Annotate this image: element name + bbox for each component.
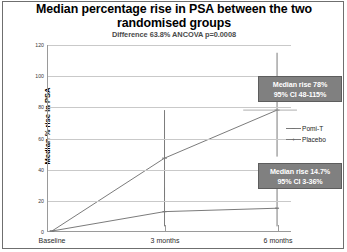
plot-area: 020406080100120Baseline3 months6 months [47, 45, 291, 232]
y-tick-label: 40 [38, 167, 44, 173]
legend-swatch-icon: – [286, 125, 301, 132]
legend-item[interactable]: +Placebo [286, 134, 344, 145]
y-tick-label: 0 [41, 229, 44, 235]
y-tick-label: 60 [38, 136, 44, 142]
upper-annotation-callout: Median rise 78% 95% CI 48-115% [258, 76, 342, 102]
x-tick-label: Baseline [39, 237, 66, 244]
gridline [48, 45, 291, 46]
legend-item[interactable]: –Pomi-T [286, 123, 344, 134]
x-tick-mark [278, 225, 279, 231]
upper-annotation-line2: 95% CI 48-115% [263, 90, 337, 100]
lower-annotation-callout: Median rise 14.7% 95% CI 3-36% [258, 163, 342, 189]
x-tick-mark [165, 225, 166, 231]
y-tick-label: 120 [35, 42, 44, 48]
gridline [48, 201, 291, 202]
y-tick-label: 20 [38, 198, 44, 204]
gridline [48, 76, 291, 77]
upper-annotation-line1: Median rise 78% [263, 80, 337, 90]
y-tick-label: 80 [38, 104, 44, 110]
chart-legend: –Pomi-T+Placebo [286, 123, 344, 145]
lower-annotation-line2: 95% CI 3-36% [263, 177, 337, 187]
gridline [48, 170, 291, 171]
lower-annotation-line1: Median rise 14.7% [263, 167, 337, 177]
gridline [48, 139, 291, 140]
x-tick-label: 6 months [264, 237, 293, 244]
chart-subtitle: Difference 63.8% ANCOVA p=0.0008 [24, 30, 324, 39]
x-tick-label: 3 months [151, 237, 180, 244]
chart-title: Median percentage rise in PSA between th… [24, 3, 324, 30]
legend-item-label: Pomi-T [302, 125, 323, 132]
gridline [48, 107, 291, 108]
legend-item-label: Placebo [302, 136, 326, 143]
chart-figure: Median percentage rise in PSA between th… [0, 0, 347, 252]
y-tick-label: 100 [35, 73, 44, 79]
legend-swatch-icon: + [286, 136, 301, 143]
